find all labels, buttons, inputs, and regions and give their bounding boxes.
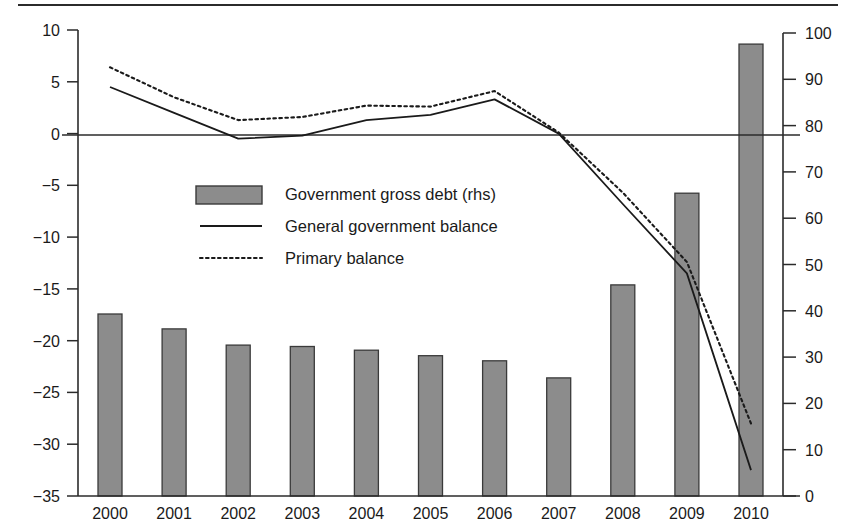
left-tick-label--30: −30 <box>33 436 60 453</box>
left-axis-ticks: 1050−5−10−15−20−25−30−35 <box>33 22 78 505</box>
chart-legend: Government gross debt (rhs) General gove… <box>196 185 498 267</box>
left-tick-label--35: −35 <box>33 488 60 505</box>
right-tick-label-10: 10 <box>805 442 823 459</box>
bar-2006 <box>483 361 507 496</box>
left-tick-label-5: 5 <box>51 74 60 91</box>
legend-label-government-gross-debt: Government gross debt (rhs) <box>285 185 496 203</box>
legend-label-general-government-balance: General government balance <box>285 217 498 235</box>
chart-canvas: 1050−5−10−15−20−25−30−35 100908070605040… <box>0 0 855 531</box>
right-tick-label-60: 60 <box>805 210 823 227</box>
chart-figure: 1050−5−10−15−20−25−30−35 100908070605040… <box>0 0 855 531</box>
x-tick-label-2008: 2008 <box>605 505 641 522</box>
left-tick-label--25: −25 <box>33 384 60 401</box>
bar-2004 <box>354 350 378 496</box>
bar-2009 <box>675 193 699 496</box>
right-axis-ticks: 1009080706050403020100 <box>783 25 832 505</box>
right-tick-label-30: 30 <box>805 349 823 366</box>
bar-2008 <box>611 285 635 496</box>
right-tick-label-70: 70 <box>805 164 823 181</box>
x-tick-label-2001: 2001 <box>156 505 192 522</box>
bar-2002 <box>226 345 250 496</box>
bar-2000 <box>98 314 122 496</box>
bar-2005 <box>419 356 443 496</box>
x-tick-label-2007: 2007 <box>541 505 577 522</box>
right-tick-label-90: 90 <box>805 71 823 88</box>
left-tick-label-10: 10 <box>42 22 60 39</box>
right-tick-label-80: 80 <box>805 118 823 135</box>
x-tick-label-2010: 2010 <box>733 505 769 522</box>
left-tick-label--20: −20 <box>33 333 60 350</box>
x-tick-label-2004: 2004 <box>349 505 385 522</box>
left-tick-label--15: −15 <box>33 281 60 298</box>
left-tick-label-0: 0 <box>51 126 60 143</box>
chart-screenshot: 1050−5−10−15−20−25−30−35 100908070605040… <box>0 0 855 531</box>
right-tick-label-40: 40 <box>805 303 823 320</box>
legend-swatch-government-gross-debt <box>196 186 262 204</box>
x-tick-label-2005: 2005 <box>413 505 449 522</box>
x-tick-label-2000: 2000 <box>92 505 128 522</box>
bar-2007 <box>547 378 571 496</box>
bar-2003 <box>290 347 314 497</box>
x-tick-label-2002: 2002 <box>220 505 256 522</box>
x-axis-tick-labels: 2000200120022003200420052006200720082009… <box>92 505 769 522</box>
legend-label-primary-balance: Primary balance <box>285 249 404 267</box>
right-tick-label-100: 100 <box>805 25 832 42</box>
bar-2010 <box>739 44 763 496</box>
right-tick-label-20: 20 <box>805 395 823 412</box>
x-tick-label-2003: 2003 <box>285 505 321 522</box>
right-tick-label-0: 0 <box>805 488 814 505</box>
bar-series-government-gross-debt <box>98 44 763 496</box>
bar-2001 <box>162 329 186 496</box>
left-tick-label--5: −5 <box>42 177 60 194</box>
right-tick-label-50: 50 <box>805 257 823 274</box>
x-tick-label-2006: 2006 <box>477 505 513 522</box>
x-tick-label-2009: 2009 <box>669 505 705 522</box>
left-tick-label--10: −10 <box>33 229 60 246</box>
